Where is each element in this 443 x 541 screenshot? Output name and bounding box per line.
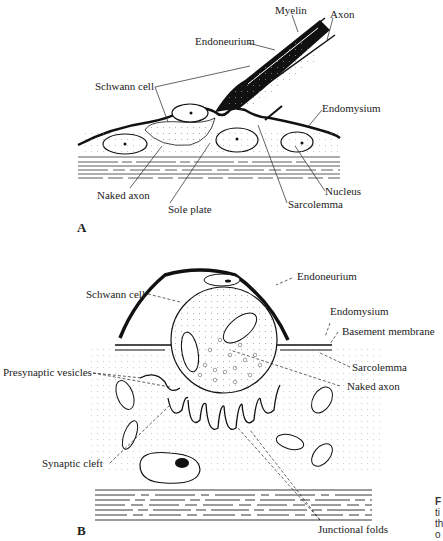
label-b-junctional-folds: Junctional folds bbox=[318, 523, 388, 535]
label-b-naked-axon: Naked axon bbox=[347, 380, 400, 392]
label-schwann-cell: Schwann cell bbox=[95, 80, 154, 92]
label-sole-plate: Sole plate bbox=[168, 203, 212, 215]
panel-letter-a: A bbox=[77, 220, 86, 236]
label-sarcolemma: Sarcolemma bbox=[288, 198, 343, 210]
caption-line: F bbox=[435, 496, 443, 507]
label-nucleus: Nucleus bbox=[325, 185, 361, 197]
label-b-sarcolemma: Sarcolemma bbox=[352, 361, 407, 373]
label-axon: Axon bbox=[330, 8, 354, 20]
caption-line: ti bbox=[435, 507, 443, 518]
label-b-endomysium: Endomysium bbox=[330, 305, 389, 317]
label-b-presynaptic-vesicles: Presynaptic vesicles bbox=[3, 366, 92, 378]
label-b-schwann-cell: Schwann cell bbox=[86, 288, 145, 300]
label-b-basement-membrane: Basement membrane bbox=[342, 325, 435, 337]
label-b-synaptic-cleft: Synaptic cleft bbox=[42, 457, 103, 469]
caption-line: th bbox=[435, 518, 443, 529]
label-endoneurium: Endoneurium bbox=[195, 35, 255, 47]
caption-fragment: F ti th o bbox=[435, 496, 443, 540]
caption-line: o bbox=[435, 529, 443, 540]
label-naked-axon: Naked axon bbox=[97, 189, 150, 201]
label-b-endoneurium: Endoneurium bbox=[297, 270, 357, 282]
label-myelin: Myelin bbox=[275, 4, 307, 16]
label-endomysium: Endomysium bbox=[322, 102, 381, 114]
panel-letter-b: B bbox=[77, 523, 86, 539]
